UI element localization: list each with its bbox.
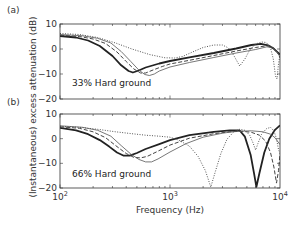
series-thin-solid (60, 35, 280, 76)
panel-annotation: 66% Hard ground (72, 169, 151, 179)
x-tick-label: 103 (162, 190, 178, 202)
x-axis-title: Frequency (Hz) (136, 205, 204, 215)
x-tick-label: 102 (52, 190, 68, 202)
x-tick-label: 104 (272, 190, 288, 202)
figure: (a) (b) (Instantaneous) excess attenuati… (0, 0, 295, 225)
y-axis-title: (Instantaneous) excess attenuation (dB) (28, 16, 38, 197)
y-tick-label: 0 (51, 134, 57, 144)
x-tick-labels: 102103104 (52, 190, 288, 202)
panel-annotation: 33% Hard ground (72, 78, 151, 88)
y-tick-label: −10 (38, 158, 57, 168)
y-tick-label: −20 (38, 94, 57, 104)
y-tick-label: 0 (51, 44, 57, 54)
series-dotted (60, 34, 280, 80)
panel-a: 100−10−2033% Hard ground (38, 19, 280, 104)
panel-label-b: (b) (7, 97, 20, 107)
y-tick-label: 10 (46, 109, 58, 119)
y-tick-label: −10 (38, 69, 57, 79)
panel-label-a: (a) (7, 5, 20, 15)
panel-b: 100−10−2066% Hard ground (38, 109, 280, 193)
y-tick-label: 10 (46, 19, 58, 29)
plot-area: (Instantaneous) excess attenuation (dB) … (0, 0, 295, 225)
